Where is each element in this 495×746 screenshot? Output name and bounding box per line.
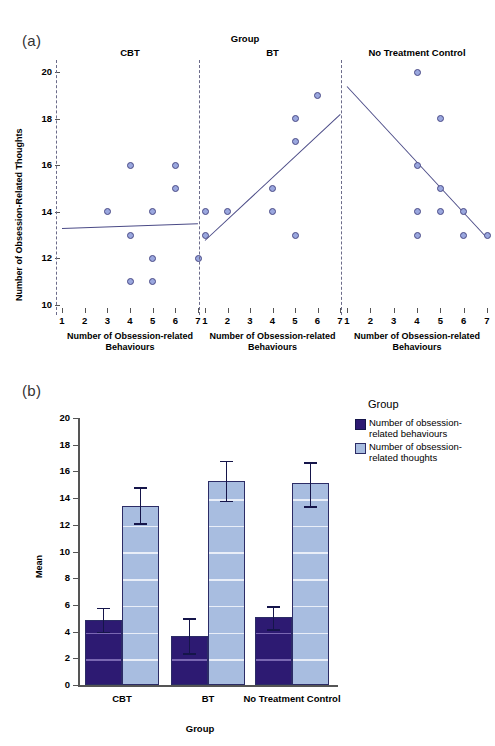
scatter-x-tick-mark bbox=[440, 308, 441, 313]
bar-gridline bbox=[293, 633, 328, 635]
error-bar-cap-top bbox=[97, 608, 110, 610]
scatter-x-tick-label: 5 bbox=[433, 315, 447, 326]
bar-gridline bbox=[172, 659, 207, 661]
legend-label: Number of obsession- related behaviours bbox=[369, 418, 462, 439]
scatter-x-tick-label: 7 bbox=[480, 315, 494, 326]
error-bar-cap-top bbox=[220, 461, 233, 463]
scatter-x-tick-mark bbox=[273, 308, 274, 313]
bar-y-tick-label: 16 bbox=[48, 465, 70, 476]
scatter-x-tick-mark bbox=[107, 308, 108, 313]
bar-gridline bbox=[123, 633, 158, 635]
scatter-regression-line bbox=[62, 223, 198, 229]
scatter-x-tick-mark bbox=[62, 308, 63, 313]
scatter-point bbox=[172, 162, 179, 169]
legend-swatch bbox=[355, 419, 366, 430]
bar-y-tick-label: 0 bbox=[48, 679, 70, 690]
scatter-point bbox=[269, 185, 276, 192]
bar-category-label: No Treatment Control bbox=[232, 693, 352, 704]
bar-gridline bbox=[209, 659, 244, 661]
bar-gridline bbox=[293, 659, 328, 661]
legend-title: Group bbox=[368, 398, 399, 410]
legend-label: Number of obsession- related thoughts bbox=[369, 442, 462, 463]
scatter-x-tick-mark bbox=[347, 308, 348, 313]
scatter-point bbox=[484, 232, 491, 239]
legend-item: Number of obsession- related thoughts bbox=[355, 442, 493, 463]
scatter-point bbox=[414, 69, 421, 76]
panel-a-label: (a) bbox=[22, 32, 41, 49]
scatter-point bbox=[437, 185, 444, 192]
bar-gridline bbox=[256, 659, 291, 661]
bar-gridline bbox=[209, 606, 244, 608]
error-bar-cap-top bbox=[134, 487, 147, 489]
error-bar bbox=[226, 461, 228, 501]
error-bar-cap-bottom bbox=[267, 629, 280, 631]
scatter-y-tick-label: 20 bbox=[30, 66, 52, 77]
bar-gridline bbox=[123, 526, 158, 528]
error-bar-cap-top bbox=[183, 618, 196, 620]
scatter-x-tick-label: 3 bbox=[100, 315, 114, 326]
scatter-point bbox=[314, 92, 321, 99]
scatter-regression-line bbox=[205, 114, 341, 241]
scatter-x-tick-mark bbox=[487, 308, 488, 313]
bar bbox=[292, 483, 329, 685]
scatter-x-tick-label: 1 bbox=[55, 315, 69, 326]
scatter-y-tick-label: 12 bbox=[30, 252, 52, 263]
scatter-x-tick-label: 6 bbox=[457, 315, 471, 326]
scatter-point bbox=[292, 232, 299, 239]
bar-y-tick-label: 18 bbox=[48, 439, 70, 450]
bar-gridline bbox=[293, 526, 328, 528]
scatter-point bbox=[127, 162, 134, 169]
scatter-point bbox=[224, 208, 231, 215]
scatter-point bbox=[292, 115, 299, 122]
scatter-x-tick-mark bbox=[250, 308, 251, 313]
scatter-x-tick-label: 6 bbox=[311, 315, 325, 326]
bar-gridline bbox=[293, 579, 328, 581]
scatter-x-tick-label: 1 bbox=[340, 315, 354, 326]
bar-gridline bbox=[86, 659, 121, 661]
scatter-point bbox=[292, 138, 299, 145]
scatter-x-tick-label: 2 bbox=[221, 315, 235, 326]
scatter-x-tick-mark bbox=[175, 308, 176, 313]
scatter-x-tick-mark bbox=[464, 308, 465, 313]
scatter-panel: (a) Group Number of Obsession-Related Th… bbox=[0, 0, 495, 370]
bar-y-axis-label: Mean bbox=[34, 555, 44, 578]
scatter-x-tick-mark bbox=[85, 308, 86, 313]
scatter-point bbox=[414, 208, 421, 215]
bar-y-tick-label: 12 bbox=[48, 519, 70, 530]
scatter-x-tick-label: 4 bbox=[123, 315, 137, 326]
error-bar bbox=[103, 608, 105, 632]
scatter-point bbox=[149, 255, 156, 262]
bar-gridline bbox=[209, 552, 244, 554]
scatter-y-tick-label: 16 bbox=[30, 159, 52, 170]
scatter-facet-divider bbox=[341, 60, 342, 315]
scatter-x-tick-label: 5 bbox=[288, 315, 302, 326]
scatter-x-tick-label: 1 bbox=[198, 315, 212, 326]
scatter-point bbox=[127, 232, 134, 239]
bar-gridline bbox=[293, 552, 328, 554]
bar-gridline bbox=[256, 633, 291, 635]
scatter-point bbox=[149, 208, 156, 215]
bar-gridline bbox=[123, 659, 158, 661]
scatter-point bbox=[104, 208, 111, 215]
scatter-point bbox=[202, 232, 209, 239]
legend-item: Number of obsession- related behaviours bbox=[355, 418, 493, 439]
scatter-group-title: Group bbox=[205, 33, 285, 44]
scatter-x-tick-mark bbox=[295, 308, 296, 313]
scatter-x-tick-label: 2 bbox=[363, 315, 377, 326]
scatter-x-tick-label: 2 bbox=[78, 315, 92, 326]
error-bar bbox=[310, 462, 312, 506]
scatter-point bbox=[149, 278, 156, 285]
scatter-point bbox=[437, 115, 444, 122]
scatter-point bbox=[414, 162, 421, 169]
scatter-x-tick-mark bbox=[228, 308, 229, 313]
bar-gridline bbox=[123, 552, 158, 554]
legend-swatch bbox=[355, 443, 366, 454]
bar-y-tick-label: 14 bbox=[48, 492, 70, 503]
bar-y-tick-label: 20 bbox=[48, 412, 70, 423]
scatter-facet-title: No Treatment Control bbox=[327, 47, 495, 58]
bar-y-tick-label: 2 bbox=[48, 652, 70, 663]
scatter-point bbox=[269, 208, 276, 215]
scatter-x-tick-mark bbox=[417, 308, 418, 313]
bar-panel: (b) Mean 02468101214161820 CBTBTNo Treat… bbox=[0, 370, 495, 746]
scatter-point bbox=[195, 255, 202, 262]
